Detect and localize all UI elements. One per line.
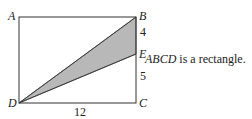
caption-text: is a rectangle. — [176, 52, 245, 66]
vertex-label-d: D — [7, 96, 17, 110]
caption-subject: ABCD — [145, 52, 176, 66]
length-label-ec: 5 — [140, 69, 146, 83]
caption: ABCD is a rectangle. — [145, 52, 246, 67]
length-label-be: 4 — [140, 25, 146, 39]
length-label-dc: 12 — [74, 105, 86, 119]
vertex-label-a: A — [7, 9, 16, 23]
vertex-label-b: B — [139, 9, 147, 23]
vertex-label-c: C — [139, 96, 148, 110]
